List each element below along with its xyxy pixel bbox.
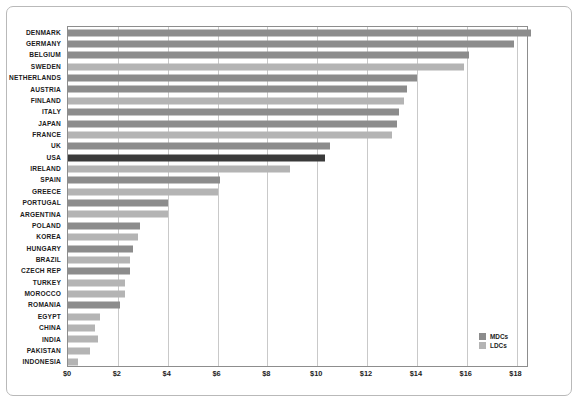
x-tick-label-18: $18 [509,369,521,378]
category-label-argentina: ARGENTINA [20,210,61,217]
bar-china [68,325,95,332]
category-label-austria: AUSTRIA [30,85,61,92]
bar-row [68,118,527,129]
category-label-usa: USA [46,153,61,160]
category-label-hungary: HUNGARY [27,244,62,251]
bar-finland [68,97,404,104]
bar-row [68,141,527,152]
x-tick-label-0: $0 [63,369,71,378]
x-tick-label-8: $8 [262,369,270,378]
value-axis-labels: $0$2$4$6$8$10$12$14$16$18 [67,369,528,385]
bar-row [68,300,527,311]
legend-item-ldcs[interactable]: LDCs [479,342,508,349]
bar-morocco [68,290,125,297]
x-tick-label-16: $16 [460,369,472,378]
bar-denmark [68,29,531,36]
category-label-denmark: DENMARK [26,28,61,35]
bar-poland [68,222,140,229]
bar-row [68,72,527,83]
category-label-poland: POLAND [32,221,61,228]
bar-argentina [68,211,168,218]
category-label-finland: FINLAND [31,96,61,103]
legend-label: MDCs [490,333,508,340]
category-label-spain: SPAIN [40,176,61,183]
category-label-morocco: MOROCCO [24,290,61,297]
category-label-belgium: BELGIUM [29,51,61,58]
bar-sweden [68,63,464,70]
bar-turkey [68,279,125,286]
bar-row [68,84,527,95]
category-label-japan: JAPAN [38,119,61,126]
category-label-romania: ROMANIA [28,301,61,308]
bar-row [68,277,527,288]
category-label-portugal: PORTUGAL [22,199,61,206]
plot-area [67,26,528,367]
category-label-china: CHINA [39,324,61,331]
bar-row [68,220,527,231]
chart-legend: MDCsLDCs [479,333,508,351]
category-label-italy: ITALY [42,108,61,115]
x-tick-label-10: $10 [310,369,322,378]
bar-italy [68,109,399,116]
legend-item-mdcs[interactable]: MDCs [479,333,508,340]
bar-row [68,38,527,49]
bar-germany [68,41,514,48]
bar-egypt [68,313,100,320]
bar-row [68,197,527,208]
bar-korea [68,234,138,241]
bar-row [68,322,527,333]
x-tick-label-14: $14 [410,369,422,378]
bar-row [68,266,527,277]
bar-usa [68,154,325,161]
bar-chart: DENMARKGERMANYBELGIUMSWEDENNETHERLANDSAU… [0,0,584,407]
x-tick-label-4: $4 [163,369,171,378]
bar-row [68,209,527,220]
category-label-france: FRANCE [32,130,61,137]
bar-row [68,186,527,197]
category-label-indonesia: INDONESIA [23,358,61,365]
category-label-germany: GERMANY [26,40,61,47]
bar-ireland [68,165,290,172]
bar-netherlands [68,75,417,82]
x-tick-label-6: $6 [212,369,220,378]
bar-greece [68,188,218,195]
bar-row [68,107,527,118]
bar-row [68,243,527,254]
category-label-uk: UK [51,142,61,149]
category-label-czech-rep: CZECH REP [21,267,61,274]
bar-japan [68,120,397,127]
bars-layer [68,27,527,366]
bar-romania [68,302,120,309]
bar-row [68,288,527,299]
bar-uk [68,143,330,150]
bar-row [68,27,527,38]
bar-austria [68,86,407,93]
category-label-netherlands: NETHERLANDS [9,74,61,81]
bar-india [68,336,98,343]
bar-row [68,95,527,106]
bar-portugal [68,200,168,207]
bar-row [68,231,527,242]
bar-row [68,175,527,186]
bar-czech-rep [68,268,130,275]
legend-swatch-icon [479,333,486,340]
bar-row [68,356,527,367]
category-label-greece: GREECE [32,187,61,194]
category-label-pakistan: PAKISTAN [27,346,61,353]
bar-row [68,152,527,163]
bar-spain [68,177,220,184]
category-label-sweden: SWEDEN [31,62,61,69]
bar-brazil [68,256,130,263]
bar-indonesia [68,359,78,366]
category-label-brazil: BRAZIL [36,256,61,263]
category-label-ireland: IRELAND [30,165,61,172]
bar-hungary [68,245,133,252]
bar-row [68,61,527,72]
category-label-korea: KOREA [36,233,61,240]
bar-row [68,254,527,265]
category-label-turkey: TURKEY [33,278,61,285]
bar-pakistan [68,347,90,354]
bar-france [68,131,392,138]
legend-swatch-icon [479,342,486,349]
bar-belgium [68,52,469,59]
